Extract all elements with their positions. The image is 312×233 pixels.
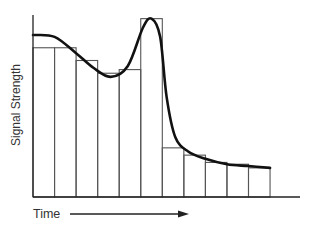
bar [33, 48, 55, 197]
signal-curve [33, 18, 270, 168]
bar [249, 168, 271, 197]
y-axis-label: Signal Strength [9, 64, 23, 146]
bar [227, 164, 249, 197]
time-arrow-head-icon [178, 211, 189, 218]
bar [184, 155, 206, 197]
bar [205, 162, 227, 197]
bar [55, 48, 77, 197]
bar [119, 70, 141, 197]
x-axis-label: Time [33, 207, 60, 221]
bar [76, 61, 98, 198]
bar [162, 148, 184, 197]
bar [141, 19, 163, 197]
signal-chart [0, 0, 312, 233]
bar [98, 73, 120, 197]
